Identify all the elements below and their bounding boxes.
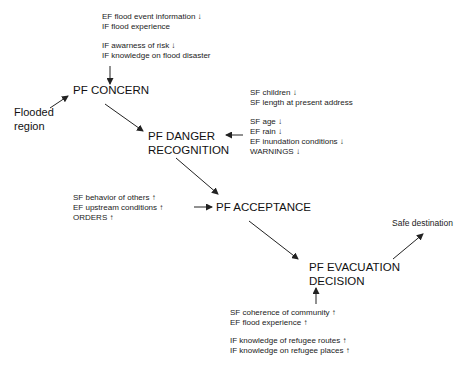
factor-knowledge-refugee-routes: IF knowledge of refugee routes ↑ xyxy=(230,336,350,346)
node-pf-evacuation-decision: PF EVACUATION DECISION xyxy=(309,260,400,288)
start-line-2: region xyxy=(14,119,54,133)
factor-warnings: WARNINGS ↓ xyxy=(250,147,344,157)
factor-group-evacuation-2: IF knowledge of refugee routes ↑ IF know… xyxy=(230,336,350,356)
factor-group-danger-1: SF children ↓ SF length at present addre… xyxy=(250,88,353,108)
factor-children: SF children ↓ xyxy=(250,88,353,98)
factor-flood-experience: IF flood experience xyxy=(102,22,202,32)
node-pf-danger-recognition: PF DANGER RECOGNITION xyxy=(148,129,229,157)
factor-knowledge-flood-disaster: IF knowledge on flood disaster xyxy=(102,51,211,61)
factor-awareness-of-risk: IF awarness of risk ↓ xyxy=(102,41,211,51)
factor-orders: ORDERS ↑ xyxy=(73,213,163,223)
factor-group-concern-1: EF flood event information ↓ IF flood ex… xyxy=(102,12,202,32)
factor-upstream-conditions: EF upstream conditions ↑ xyxy=(73,203,163,213)
node-danger-line-2: RECOGNITION xyxy=(148,143,229,157)
factor-knowledge-refugee-places: IF knowledge on refugee places ↑ xyxy=(230,346,350,356)
start-flooded-region: Flooded region xyxy=(14,105,54,133)
start-line-1: Flooded xyxy=(14,105,54,119)
node-pf-concern: PF CONCERN xyxy=(73,83,149,97)
node-danger-line-1: PF DANGER xyxy=(148,129,229,143)
factor-age: SF age ↓ xyxy=(250,117,344,127)
factor-inundation-conditions: EF inundation conditions ↓ xyxy=(250,137,344,147)
factor-group-danger-2: SF age ↓ EF rain ↓ EF inundation conditi… xyxy=(250,117,344,157)
factor-behavior-of-others: SF behavior of others ↑ xyxy=(73,193,163,203)
factor-group-concern-2: IF awarness of risk ↓ IF knowledge on fl… xyxy=(102,41,211,61)
arrow-danger-to-acceptance xyxy=(176,158,218,194)
arrow-acceptance-to-evacuation xyxy=(249,221,298,259)
node-pf-acceptance: PF ACCEPTANCE xyxy=(216,200,311,214)
end-safe-destination: Safe destination xyxy=(392,218,453,228)
factor-group-acceptance: SF behavior of others ↑ EF upstream cond… xyxy=(73,193,163,223)
factor-length-at-address: SF length at present address xyxy=(250,98,353,108)
factor-coherence-of-community: SF coherence of community ↑ xyxy=(230,308,336,318)
arrow-concern-to-danger xyxy=(105,104,143,131)
factor-group-evacuation-1: SF coherence of community ↑ EF flood exp… xyxy=(230,308,336,328)
arrow-evacuation-to-safe xyxy=(393,234,423,259)
factor-rain: EF rain ↓ xyxy=(250,127,344,137)
node-evac-line-2: DECISION xyxy=(309,274,400,288)
node-evac-line-1: PF EVACUATION xyxy=(309,260,400,274)
factor-flood-experience-ef: EF flood experience ↑ xyxy=(230,318,336,328)
factor-flood-event-information: EF flood event information ↓ xyxy=(102,12,202,22)
